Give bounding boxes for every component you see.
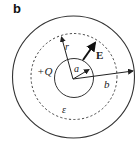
field-E-arrow: [83, 43, 95, 60]
charge-label: +Q: [37, 65, 52, 77]
radius-r-label: r: [65, 41, 69, 52]
capacitor-diagram: +Q E r a b ε: [0, 0, 138, 144]
radius-a-label: a: [74, 63, 79, 74]
field-label: E: [96, 49, 103, 61]
radius-b-label: b: [104, 78, 110, 90]
permittivity-label: ε: [62, 104, 66, 115]
radius-b-arrow: [73, 71, 133, 79]
